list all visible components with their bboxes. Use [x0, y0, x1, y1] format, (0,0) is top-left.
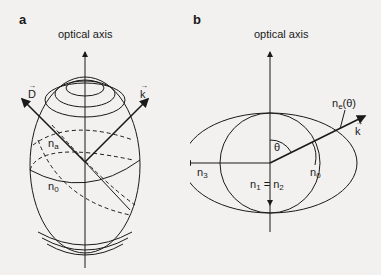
k-vector-arrow-b — [270, 116, 365, 163]
panel-b-index-cross-section: b optical axis ne(θ — [190, 0, 381, 275]
n-0-label-b: n0 — [310, 166, 321, 180]
panel-a-index-ellipsoid: a optical axis — [0, 0, 190, 275]
n-e-theta-label: ne(θ) — [332, 97, 356, 111]
n1-equals-n2-label: n1 = n2 — [250, 178, 284, 192]
d-vector-label: →D — [28, 88, 36, 100]
k-vector-label-a: →k — [140, 88, 146, 100]
theta-label: θ — [274, 141, 280, 153]
n-a-label: na — [48, 137, 59, 151]
index-cross-section-drawing — [190, 0, 381, 275]
k-vector-label-b: →k — [355, 125, 361, 137]
index-ellipsoid-drawing — [0, 0, 190, 275]
n-3-label: n3 — [197, 166, 208, 180]
n-0-label-a: n0 — [48, 180, 59, 194]
